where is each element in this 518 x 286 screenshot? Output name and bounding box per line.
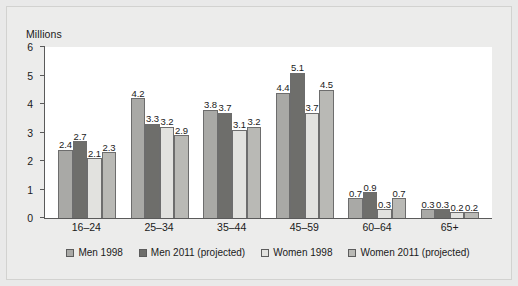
bar-slot: 0.7	[392, 47, 407, 218]
bar[interactable]: 4.2	[131, 98, 146, 218]
bar-slot: 3.8	[203, 47, 218, 218]
bar-value-label: 0.2	[450, 203, 463, 213]
bar[interactable]: 3.8	[203, 110, 218, 218]
x-axis-category-label: 35–44	[195, 221, 268, 233]
legend-swatch-icon	[66, 249, 74, 257]
chart-legend: Men 1998Men 2011 (projected)Women 1998Wo…	[44, 247, 492, 258]
bar[interactable]: 5.1	[290, 73, 305, 218]
bar-value-label: 4.2	[131, 89, 144, 99]
chart-figure: Millions 0123456 2.42.72.12.34.23.33.22.…	[0, 0, 518, 286]
bar-slot: 2.7	[73, 47, 88, 218]
bar-slot: 0.9	[363, 47, 378, 218]
bar[interactable]: 2.1	[87, 158, 102, 218]
bar-value-label: 2.3	[102, 143, 115, 153]
bar-value-label: 2.9	[175, 126, 188, 136]
x-axis-category-label: 16–24	[50, 221, 123, 233]
bar-value-label: 0.7	[349, 189, 362, 199]
bar-slot: 3.3	[145, 47, 160, 218]
bar-slot: 3.1	[232, 47, 247, 218]
bar-value-label: 3.8	[204, 100, 217, 110]
bar-value-label: 2.7	[73, 132, 86, 142]
bar-value-label: 4.5	[320, 80, 333, 90]
bar-slot: 4.2	[131, 47, 146, 218]
legend-item[interactable]: Women 1998	[261, 247, 332, 258]
bar-value-label: 0.9	[363, 183, 376, 193]
bar[interactable]: 3.7	[305, 113, 320, 218]
y-axis-tick-label: 0	[27, 212, 33, 224]
bar[interactable]: 3.1	[232, 130, 247, 218]
bar-slot: 0.3	[421, 47, 436, 218]
bar[interactable]: 0.3	[421, 209, 436, 218]
plot-area: 0123456 2.42.72.12.34.23.33.22.93.83.73.…	[44, 47, 492, 219]
bar[interactable]: 3.3	[145, 124, 160, 218]
bar[interactable]: 0.7	[348, 198, 363, 218]
bar[interactable]: 2.9	[174, 135, 189, 218]
bar-group: 0.70.90.30.7	[341, 47, 414, 218]
bar[interactable]: 0.2	[450, 212, 465, 218]
x-axis-category-label: 25–34	[123, 221, 196, 233]
y-axis-tick-label: 4	[27, 98, 33, 110]
bar-value-label: 0.3	[378, 200, 391, 210]
bar-slot: 3.7	[305, 47, 320, 218]
bar-group-bars: 2.42.72.12.3	[58, 47, 116, 218]
bar-group: 2.42.72.12.3	[51, 47, 124, 218]
bar[interactable]: 4.5	[319, 90, 334, 218]
legend-swatch-icon	[139, 249, 147, 257]
bar-value-label: 3.1	[233, 120, 246, 130]
bar-slot: 2.4	[58, 47, 73, 218]
x-axis-category-label: 60–64	[341, 221, 414, 233]
bar-slot: 0.2	[464, 47, 479, 218]
x-axis-category-label: 45–59	[268, 221, 341, 233]
bar-group-bars: 4.23.33.22.9	[131, 47, 189, 218]
y-axis-tick-label: 5	[27, 70, 33, 82]
bar-value-label: 3.7	[218, 103, 231, 113]
legend-label: Women 1998	[273, 247, 332, 258]
bar-value-label: 5.1	[291, 63, 304, 73]
bar-slot: 2.1	[87, 47, 102, 218]
bar-group-bars: 3.83.73.13.2	[203, 47, 261, 218]
bar-slot: 4.4	[276, 47, 291, 218]
bar[interactable]: 0.3	[435, 209, 450, 218]
bar-slot: 3.2	[160, 47, 175, 218]
bar[interactable]: 2.7	[73, 141, 88, 218]
bar-slot: 2.3	[102, 47, 117, 218]
bar-value-label: 3.7	[305, 103, 318, 113]
bar-value-label: 2.1	[88, 149, 101, 159]
y-axis-tick-label: 2	[27, 155, 33, 167]
bar[interactable]: 0.2	[464, 212, 479, 218]
bar-slot: 0.7	[348, 47, 363, 218]
bar-value-label: 0.7	[392, 189, 405, 199]
bar-group: 4.45.13.74.5	[269, 47, 342, 218]
bar[interactable]: 0.3	[377, 209, 392, 218]
bar[interactable]: 4.4	[276, 93, 291, 218]
bar-slot: 3.2	[247, 47, 262, 218]
bar-slot: 5.1	[290, 47, 305, 218]
bar-group-bars: 0.30.30.20.2	[421, 47, 479, 218]
bar-value-label: 0.2	[465, 203, 478, 213]
x-axis-category-labels: 16–2425–3435–4445–5960–6465+	[44, 221, 492, 233]
y-axis-unit-label: Millions	[26, 28, 62, 40]
bar-group-bars: 0.70.90.30.7	[348, 47, 406, 218]
bar[interactable]: 3.7	[218, 113, 233, 218]
bar[interactable]: 2.3	[102, 152, 117, 218]
bar-value-label: 0.3	[421, 200, 434, 210]
legend-item[interactable]: Men 1998	[66, 247, 122, 258]
bar-value-label: 0.3	[436, 200, 449, 210]
bar-slot: 4.5	[319, 47, 334, 218]
bar[interactable]: 3.2	[247, 127, 262, 218]
bar-slot: 2.9	[174, 47, 189, 218]
bar-value-label: 3.3	[146, 114, 159, 124]
bar[interactable]: 0.7	[392, 198, 407, 218]
bar-slot: 0.3	[435, 47, 450, 218]
bar[interactable]: 0.9	[363, 192, 378, 218]
bar-slot: 0.2	[450, 47, 465, 218]
legend-item[interactable]: Women 2011 (projected)	[348, 247, 469, 258]
legend-swatch-icon	[261, 249, 269, 257]
legend-item[interactable]: Men 2011 (projected)	[139, 247, 245, 258]
y-axis-tick-label: 1	[27, 184, 33, 196]
bar[interactable]: 2.4	[58, 150, 73, 218]
y-axis-tick-label: 6	[27, 41, 33, 53]
bar-group: 0.30.30.20.2	[414, 47, 487, 218]
bar-value-label: 3.2	[247, 117, 260, 127]
bar[interactable]: 3.2	[160, 127, 175, 218]
